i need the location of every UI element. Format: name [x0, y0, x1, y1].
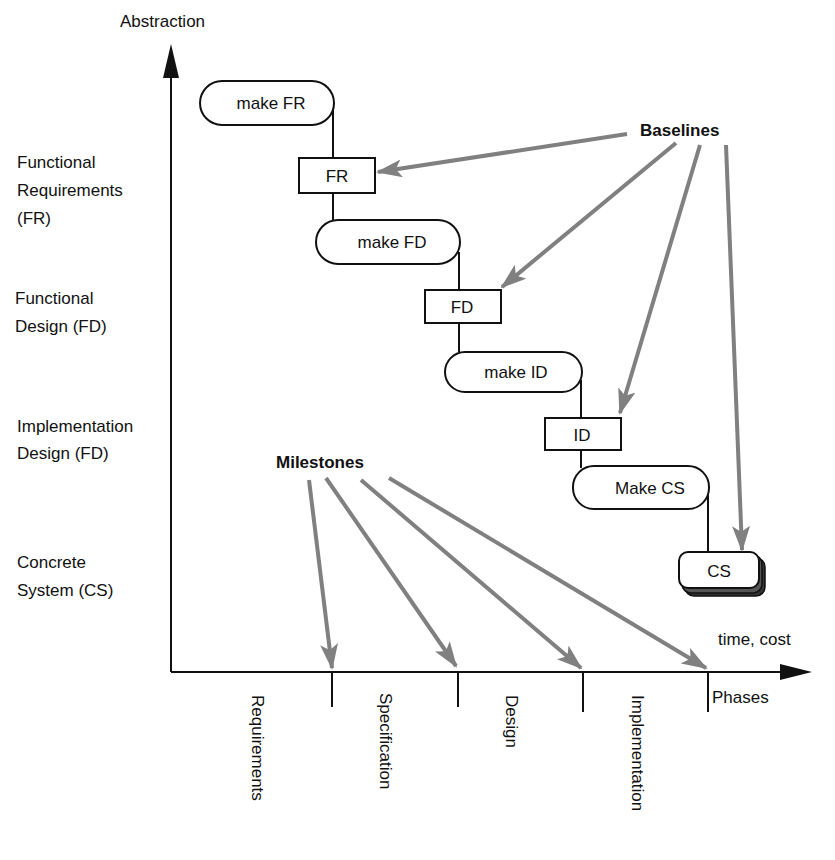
x-axis: [171, 664, 812, 680]
svg-text:(FR): (FR): [17, 209, 51, 228]
svg-text:Requirements: Requirements: [17, 181, 123, 200]
svg-text:make FR: make FR: [237, 94, 306, 113]
level-id: Implementation Design (FD): [17, 417, 133, 463]
baseline-fd: FD: [425, 290, 501, 323]
baseline-id: ID: [545, 418, 621, 450]
x-axis-arrowhead-icon: [780, 664, 812, 680]
svg-text:Functional: Functional: [15, 289, 93, 308]
svg-text:Implementation: Implementation: [17, 417, 133, 436]
svg-text:Design (FD): Design (FD): [15, 317, 107, 336]
svg-text:CS: CS: [707, 562, 731, 581]
svg-text:Design (FD): Design (FD): [17, 444, 109, 463]
baseline-fr: FR: [299, 158, 375, 193]
phase-design: Design: [502, 695, 521, 748]
milestones-annotation: Milestones: [276, 453, 364, 472]
baselines-annotation: Baselines: [640, 121, 719, 140]
svg-text:Functional: Functional: [17, 153, 95, 172]
phase-specification: Specification: [376, 693, 395, 789]
y-axis-label: Abstraction: [120, 12, 205, 31]
svg-text:FD: FD: [451, 298, 474, 317]
activity-make-id: make ID: [445, 352, 582, 392]
y-axis: [163, 44, 179, 672]
svg-text:ID: ID: [574, 426, 591, 445]
y-axis-arrowhead-icon: [163, 44, 179, 78]
activity-make-fd: make FD: [316, 220, 460, 264]
phase-requirements: Requirements: [248, 695, 267, 801]
svg-text:make FD: make FD: [358, 233, 427, 252]
svg-text:FR: FR: [326, 167, 349, 186]
phases-label: Phases: [712, 688, 769, 707]
svg-text:Concrete: Concrete: [17, 553, 86, 572]
activity-make-fr: make FR: [200, 81, 334, 125]
activity-make-cs: Make CS: [573, 466, 709, 509]
svg-text:make ID: make ID: [484, 363, 547, 382]
x-axis-label: time, cost: [718, 630, 791, 649]
baseline-cs: CS: [679, 552, 765, 596]
level-fd: Functional Design (FD): [15, 289, 107, 336]
level-cs: Concrete System (CS): [17, 553, 113, 600]
svg-text:System (CS): System (CS): [17, 581, 113, 600]
svg-text:Make CS: Make CS: [615, 479, 685, 498]
level-fr: Functional Requirements (FR): [17, 153, 123, 228]
diagram-canvas: Abstraction time, cost Phases Functional…: [0, 0, 835, 860]
phase-implementation: Implementation: [628, 695, 647, 811]
